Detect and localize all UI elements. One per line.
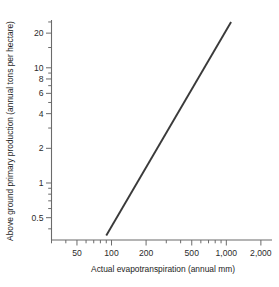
x-axis-ticks [52, 240, 261, 246]
y-axis-title: Above ground primary production (annual … [5, 21, 15, 241]
y-tick-label: 10 [34, 63, 44, 73]
x-tick-label: 200 [139, 248, 154, 258]
y-tick-label: 0.5 [32, 213, 44, 223]
data-line-series-0 [106, 22, 231, 236]
data-series-group [106, 22, 231, 236]
y-tick-label: 8 [39, 74, 44, 84]
y-tick-label: 2 [39, 143, 44, 153]
x-tick-label: 2,000 [250, 248, 272, 258]
x-tick-label: 500 [185, 248, 200, 258]
log-log-line-chart: 2010864210.5 501002005001,0002,000 Actua… [0, 0, 279, 287]
x-axis-tick-labels: 501002005001,0002,000 [72, 248, 272, 258]
chart-figure: 2010864210.5 501002005001,0002,000 Actua… [0, 0, 279, 287]
y-tick-label: 4 [39, 109, 44, 119]
x-axis-title: Actual evapotranspiration (annual mm) [91, 264, 235, 274]
x-tick-label: 50 [72, 248, 82, 258]
y-tick-label: 1 [39, 178, 44, 188]
y-axis-tick-labels: 2010864210.5 [32, 28, 44, 223]
y-axis-ticks [46, 22, 52, 229]
y-tick-label: 20 [34, 28, 44, 38]
x-tick-label: 100 [104, 248, 119, 258]
y-tick-label: 6 [39, 88, 44, 98]
x-tick-label: 1,000 [216, 248, 238, 258]
